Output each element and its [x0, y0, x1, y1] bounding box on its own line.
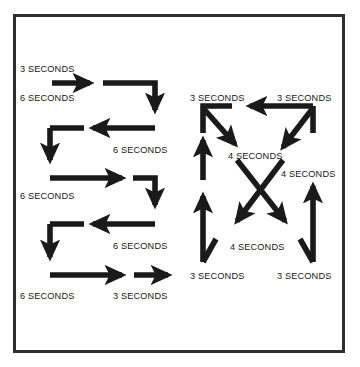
arrow-diag-down-right-upper: [203, 108, 235, 144]
label-right-6: 3 SECONDS: [190, 270, 244, 281]
label-left-6: 6 SECONDS: [20, 290, 74, 301]
figure-container: 3 SECONDS 6 SECONDS 6 SECONDS 6 SECONDS …: [0, 0, 360, 367]
diagram-canvas: [0, 0, 360, 367]
arrow-diag-down-left-upper: [283, 108, 313, 147]
arrow-seg-2-right-down: [103, 83, 155, 110]
label-left-1: 3 SECONDS: [20, 63, 74, 74]
label-right-4: 4 SECONDS: [281, 168, 335, 179]
label-left-7: 3 SECONDS: [113, 290, 167, 301]
label-right-1: 3 SECONDS: [190, 92, 244, 103]
label-left-2: 6 SECONDS: [20, 92, 74, 103]
label-left-4: 6 SECONDS: [20, 190, 74, 201]
star-crossing-pattern: [203, 106, 313, 262]
label-left-3: 6 SECONDS: [113, 144, 167, 155]
label-left-5: 6 SECONDS: [113, 240, 167, 251]
label-right-7: 3 SECONDS: [277, 270, 331, 281]
label-right-3: 4 SECONDS: [228, 150, 282, 161]
arrow-seg-6-right-down: [133, 178, 155, 205]
label-right-5: 4 SECONDS: [230, 241, 284, 252]
label-right-2: 3 SECONDS: [277, 92, 331, 103]
